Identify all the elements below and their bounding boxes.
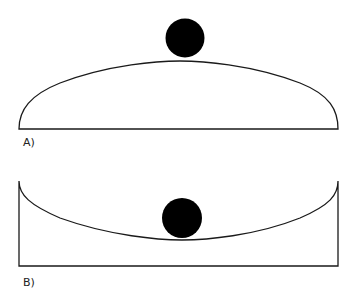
dome-shape	[19, 61, 338, 129]
panel-b-label: B)	[23, 276, 35, 289]
ball-b	[162, 198, 202, 238]
panel-b	[19, 181, 338, 266]
panel-a	[19, 19, 338, 130]
equilibrium-diagram	[0, 0, 356, 300]
ball-a	[166, 19, 205, 58]
panel-a-label: A)	[23, 136, 35, 149]
